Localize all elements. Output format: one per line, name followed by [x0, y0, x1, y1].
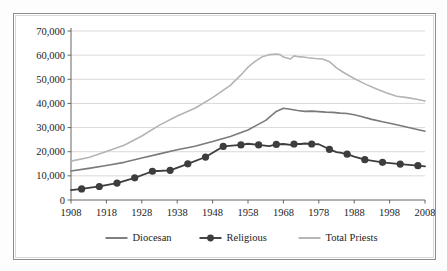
series-marker-religious [290, 140, 297, 147]
series-marker-religious [397, 160, 404, 167]
x-tick-label: 1968 [273, 207, 294, 218]
x-tick-label: 1998 [379, 207, 400, 218]
line-chart: 010,00020,00030,00040,00050,00060,00070,… [14, 14, 435, 259]
series-marker-religious [255, 141, 262, 148]
legend-label-diocesan: Diocesan [133, 232, 173, 243]
y-tick-label: 20,000 [36, 146, 65, 157]
chart-legend: DiocesanReligiousTotal Priests [106, 232, 378, 243]
y-axis-tick-labels: 010,00020,00030,00040,00050,00060,00070,… [36, 26, 65, 206]
x-tick-label: 1988 [344, 207, 365, 218]
series-marker-religious [167, 167, 174, 174]
series-line-religious [71, 144, 425, 191]
series-marker-religious [326, 146, 333, 153]
figure-caption [150, 1, 310, 10]
x-tick-label: 1918 [96, 207, 117, 218]
y-tick-label: 40,000 [36, 98, 65, 109]
series-marker-religious [184, 160, 191, 167]
series-marker-religious [149, 168, 156, 175]
series-marker-religious [379, 159, 386, 166]
series-marker-religious [273, 141, 280, 148]
y-tick-label: 30,000 [36, 122, 65, 133]
x-tick-label: 1948 [202, 207, 223, 218]
x-tick-label: 1938 [167, 207, 188, 218]
y-tick-label: 60,000 [36, 50, 65, 61]
chart-figure: 010,00020,00030,00040,00050,00060,00070,… [0, 0, 447, 271]
series-marker-religious [220, 143, 227, 150]
series-marker-religious [131, 174, 138, 181]
x-tick-label: 1908 [61, 207, 82, 218]
series-marker-religious [344, 151, 351, 158]
chart-frame: 010,00020,00030,00040,00050,00060,00070,… [13, 13, 436, 260]
series-marker-religious [414, 162, 421, 169]
x-tick-label: 2008 [415, 207, 436, 218]
legend-label-religious: Religious [227, 232, 267, 243]
x-tick-label: 1958 [238, 207, 259, 218]
legend-label-total-priests: Total Priests [326, 232, 378, 243]
legend-marker-religious [207, 235, 214, 242]
series-marker-religious [202, 153, 209, 160]
x-tick-label: 1928 [131, 207, 152, 218]
gridlines [71, 31, 425, 176]
y-tick-label: 0 [60, 195, 65, 206]
data-series [71, 54, 425, 193]
x-axis [71, 28, 425, 204]
series-line-total-priests [71, 54, 425, 161]
x-axis-tick-labels: 1908191819281938194819581968197819881998… [61, 207, 436, 218]
series-marker-religious [78, 185, 85, 192]
series-marker-religious [113, 180, 120, 187]
y-tick-label: 70,000 [36, 26, 65, 37]
series-marker-religious [308, 140, 315, 147]
y-tick-label: 50,000 [36, 74, 65, 85]
series-marker-religious [96, 183, 103, 190]
y-axis-ticks [68, 31, 72, 200]
plot-area: 010,00020,00030,00040,00050,00060,00070,… [14, 14, 435, 259]
x-tick-label: 1978 [308, 207, 329, 218]
series-marker-religious [237, 141, 244, 148]
y-tick-label: 10,000 [36, 170, 65, 181]
series-marker-religious [361, 156, 368, 163]
